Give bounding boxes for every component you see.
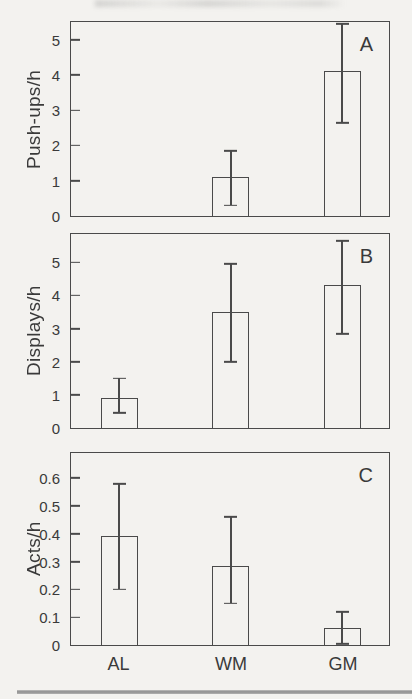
error-cap-bottom-wm [224, 205, 237, 207]
y-tick-label: 1 [52, 387, 60, 402]
y-tick-label: 5 [52, 255, 60, 270]
error-cap-bottom-al [113, 589, 126, 591]
error-bar-gm [341, 612, 343, 644]
y-tick [71, 616, 80, 618]
error-cap-bottom-gm [336, 643, 349, 645]
error-cap-bottom-wm [224, 361, 237, 363]
y-tick-label: 0 [52, 209, 60, 224]
y-tick-label: 0.1 [39, 610, 60, 625]
panel-letter-a: A [360, 34, 373, 54]
scanned-figure-page: Push-ups/h A 012345 Displays/h B 012345 … [0, 0, 412, 699]
error-cap-bottom-al [113, 412, 126, 414]
y-axis-title-pushups: Push-ups/h [21, 21, 47, 217]
x-category-label-al: AL [108, 655, 130, 675]
y-tick [71, 505, 80, 507]
panel-c: Acts/h C 00.10.20.30.40.50.6 [70, 452, 390, 646]
y-tick-label: 3 [52, 321, 60, 336]
x-category-label-wm: WM [215, 655, 247, 675]
plot-area-c: C 00.10.20.30.40.50.6 [70, 452, 390, 646]
panel-a: Push-ups/h A 012345 [70, 21, 390, 217]
error-cap-bottom-gm [336, 333, 349, 335]
y-tick-label: 0.4 [39, 526, 60, 541]
y-tick [71, 477, 80, 479]
y-tick-label: 0.6 [39, 471, 60, 486]
error-cap-top-gm [336, 240, 349, 242]
error-bar-al [118, 484, 120, 590]
panel-letter-b: B [360, 246, 373, 266]
y-tick-label: 2 [52, 354, 60, 369]
panel-b: Displays/h B 012345 [70, 233, 390, 429]
error-cap-top-wm [224, 263, 237, 265]
y-axis-title-displays: Displays/h [21, 233, 47, 429]
y-tick [71, 39, 80, 41]
y-tick [71, 261, 80, 263]
plot-area-b: B 012345 [70, 233, 390, 429]
error-cap-top-al [113, 483, 126, 485]
error-bar-wm [230, 264, 232, 362]
cropped-caption-artifact [95, 0, 345, 7]
y-tick-label: 0 [52, 638, 60, 653]
y-tick-label: 0.3 [39, 554, 60, 569]
error-cap-bottom-gm [336, 122, 349, 124]
y-tick-label: 3 [52, 103, 60, 118]
error-bar-wm [230, 517, 232, 603]
y-tick [71, 533, 80, 535]
y-tick [71, 109, 80, 111]
y-tick-label: 4 [52, 288, 60, 303]
y-tick [71, 328, 80, 330]
x-axis-category-labels: ALWMGM [70, 655, 390, 677]
error-cap-top-gm [336, 23, 349, 25]
bottom-page-rule [17, 690, 412, 694]
error-cap-top-gm [336, 611, 349, 613]
y-tick-label: 1 [52, 173, 60, 188]
panel-letter-c: C [359, 465, 373, 485]
y-tick [71, 589, 80, 591]
x-category-label-gm: GM [328, 655, 357, 675]
error-bar-gm [341, 24, 343, 123]
error-bar-wm [230, 151, 232, 206]
y-tick [71, 145, 80, 147]
y-tick-label: 0.5 [39, 498, 60, 513]
y-tick [71, 295, 80, 297]
y-tick-label: 0.2 [39, 582, 60, 597]
plot-area-a: A 012345 [70, 21, 390, 217]
y-tick [71, 361, 80, 363]
error-bar-gm [341, 241, 343, 334]
y-tick-label: 2 [52, 138, 60, 153]
error-cap-top-wm [224, 150, 237, 152]
error-cap-top-al [113, 377, 126, 379]
y-tick [71, 394, 80, 396]
y-tick-label: 5 [52, 32, 60, 47]
error-cap-top-wm [224, 516, 237, 518]
y-tick [71, 74, 80, 76]
y-tick-label: 0 [52, 421, 60, 436]
y-tick-label: 4 [52, 67, 60, 82]
y-tick [71, 561, 80, 563]
y-tick [71, 180, 80, 182]
error-bar-al [118, 378, 120, 413]
error-cap-bottom-wm [224, 602, 237, 604]
